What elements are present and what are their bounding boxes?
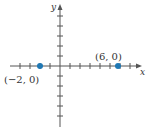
y-axis-arrow-icon	[58, 4, 63, 10]
y-axis-label: y	[50, 2, 57, 12]
coordinate-plane: x y (−2, 0) (6, 0)	[0, 0, 149, 139]
point-neg2-0	[37, 63, 43, 69]
point-label-6-0: (6, 0)	[95, 51, 122, 62]
point-6-0	[115, 63, 121, 69]
x-axis-label: x	[140, 67, 145, 77]
point-label-neg2-0: (−2, 0)	[4, 74, 39, 85]
